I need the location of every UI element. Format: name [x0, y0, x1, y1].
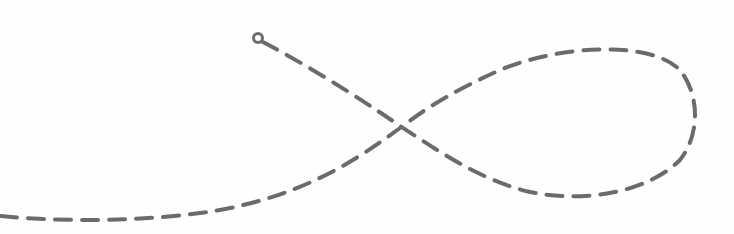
dashed-path-illustration	[0, 0, 734, 234]
dashed-loop-path	[0, 42, 695, 220]
illustration-canvas	[0, 0, 734, 234]
start-point-circle-icon	[254, 34, 263, 43]
